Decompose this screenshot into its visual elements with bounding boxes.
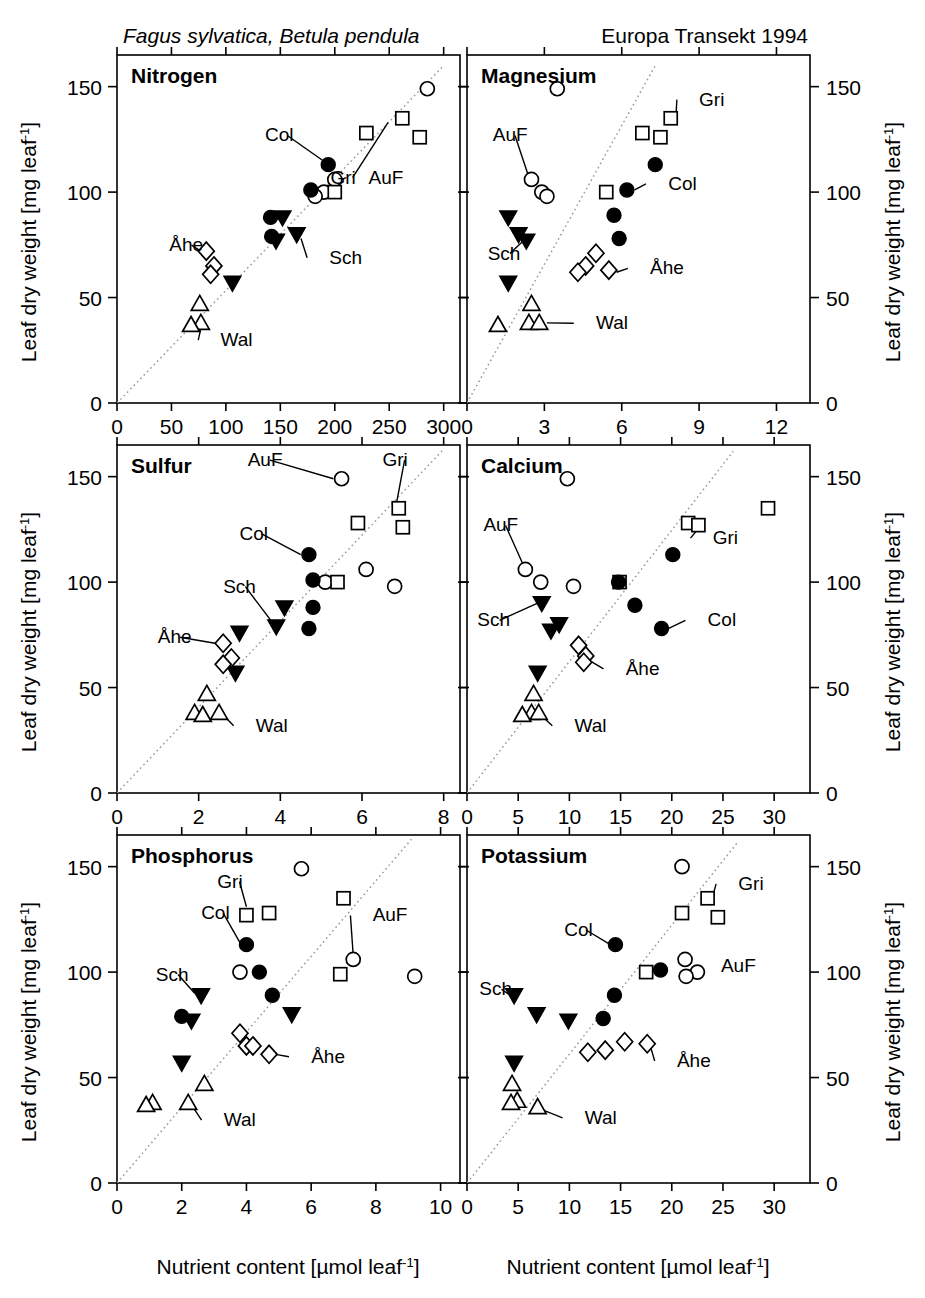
x-tick-label: 50 xyxy=(160,415,183,438)
site-label-wal: Wal xyxy=(575,715,607,736)
site-label-gri: Gri xyxy=(738,873,763,894)
site-label-auf: AuF xyxy=(493,124,528,145)
site-label-col: Col xyxy=(668,173,697,194)
site-label-auf: AuF xyxy=(721,955,756,976)
site-label-auf: AuF xyxy=(483,514,518,535)
data-point-gri xyxy=(676,907,689,920)
site-label-col: Col xyxy=(201,902,230,923)
site-label-gri: Gri xyxy=(382,449,407,470)
y-tick-label: 50 xyxy=(826,1067,849,1090)
data-point-auf xyxy=(566,579,580,593)
x-tick-label: 20 xyxy=(660,1195,683,1218)
data-point-gri xyxy=(654,131,667,144)
y-tick-label: 0 xyxy=(90,782,102,805)
data-point-gri xyxy=(711,911,724,924)
data-point-gri xyxy=(351,517,364,530)
x-tick-label: 25 xyxy=(711,805,734,828)
site-label-gri: Gri xyxy=(699,89,724,110)
site-label-gri: Gri xyxy=(330,167,355,188)
x-tick-label: 3 xyxy=(539,415,551,438)
data-point-col xyxy=(306,600,320,614)
data-point-auf xyxy=(233,965,247,979)
data-point-auf xyxy=(335,472,349,486)
site-label-sch: Sch xyxy=(329,247,362,268)
data-point-auf xyxy=(534,575,548,589)
y-axis-title-left-bottom: Leaf dry weight [mg leaf-1] xyxy=(17,902,40,1142)
data-point-auf xyxy=(294,862,308,876)
site-label-sch: Sch xyxy=(488,243,521,264)
x-tick-label: 10 xyxy=(558,805,581,828)
x-tick-label: 0 xyxy=(111,415,123,438)
x-tick-label: 5 xyxy=(512,805,524,828)
site-label-sch: Sch xyxy=(477,609,510,630)
data-point-gri xyxy=(636,127,649,140)
panel-title: Calcium xyxy=(481,454,563,477)
site-label-åhe: Åhe xyxy=(677,1050,711,1071)
y-axis-title-right-middle: Leaf dry weight [mg leaf-1] xyxy=(881,512,904,752)
panel-title: Sulfur xyxy=(131,454,192,477)
x-axis-title-right: Nutrient content [µmol leaf-1] xyxy=(507,1255,770,1278)
site-label-sch: Sch xyxy=(156,964,189,985)
data-point-col xyxy=(612,231,626,245)
y-tick-label: 150 xyxy=(826,466,861,489)
y-tick-label: 100 xyxy=(67,181,102,204)
data-point-auf xyxy=(675,860,689,874)
data-point-auf xyxy=(679,969,693,983)
x-tick-label: 15 xyxy=(609,805,632,828)
x-tick-label: 0 xyxy=(111,1195,123,1218)
data-point-gri xyxy=(360,127,373,140)
data-point-col xyxy=(608,938,622,952)
y-tick-label: 150 xyxy=(67,466,102,489)
data-point-col xyxy=(612,575,626,589)
x-tick-label: 6 xyxy=(356,805,368,828)
y-tick-label: 0 xyxy=(826,1172,838,1195)
x-tick-label: 12 xyxy=(765,415,788,438)
y-tick-label: 100 xyxy=(826,571,861,594)
site-label-col: Col xyxy=(564,919,593,940)
x-axis-title-left: Nutrient content [µmol leaf-1] xyxy=(157,1255,420,1278)
y-tick-label: 0 xyxy=(90,1172,102,1195)
site-label-auf: AuF xyxy=(248,449,283,470)
y-axis-title-left-middle: Leaf dry weight [mg leaf-1] xyxy=(17,512,40,752)
site-label-åhe: Åhe xyxy=(311,1046,345,1067)
y-tick-label: 0 xyxy=(90,392,102,415)
data-point-col xyxy=(607,988,621,1002)
site-label-gri: Gri xyxy=(217,871,242,892)
data-point-gri xyxy=(396,112,409,125)
data-point-gri xyxy=(392,502,405,515)
x-tick-label: 8 xyxy=(438,805,450,828)
site-label-col: Col xyxy=(708,609,737,630)
data-point-col xyxy=(607,208,621,222)
data-point-gri xyxy=(396,521,409,534)
panel-title: Phosphorus xyxy=(131,844,254,867)
panel-title: Potassium xyxy=(481,844,587,867)
data-point-col xyxy=(304,183,318,197)
data-point-col xyxy=(620,183,634,197)
data-point-gri xyxy=(600,186,613,199)
x-tick-label: 150 xyxy=(263,415,298,438)
x-tick-label: 0 xyxy=(461,805,473,828)
data-point-col xyxy=(239,938,253,952)
site-label-gri: Gri xyxy=(713,527,738,548)
x-tick-label: 250 xyxy=(372,415,407,438)
data-point-col xyxy=(648,158,662,172)
y-tick-label: 100 xyxy=(67,961,102,984)
x-tick-label: 4 xyxy=(274,805,286,828)
data-point-gri xyxy=(413,131,426,144)
y-axis-title-right-bottom: Leaf dry weight [mg leaf-1] xyxy=(881,902,904,1142)
site-label-åhe: Åhe xyxy=(626,658,660,679)
x-tick-label: 10 xyxy=(429,1195,452,1218)
x-tick-label: 4 xyxy=(241,1195,253,1218)
data-point-auf xyxy=(408,969,422,983)
data-point-gri xyxy=(640,966,653,979)
figure-container: Fagus sylvatica, Betula pendula Europa T… xyxy=(0,0,925,1298)
x-tick-label: 100 xyxy=(208,415,243,438)
x-tick-label: 6 xyxy=(305,1195,317,1218)
y-tick-label: 50 xyxy=(79,677,102,700)
site-label-wal: Wal xyxy=(224,1109,256,1130)
data-point-auf xyxy=(388,579,402,593)
data-point-col xyxy=(628,598,642,612)
y-tick-label: 100 xyxy=(67,571,102,594)
x-tick-label: 10 xyxy=(558,1195,581,1218)
x-tick-label: 0 xyxy=(111,805,123,828)
